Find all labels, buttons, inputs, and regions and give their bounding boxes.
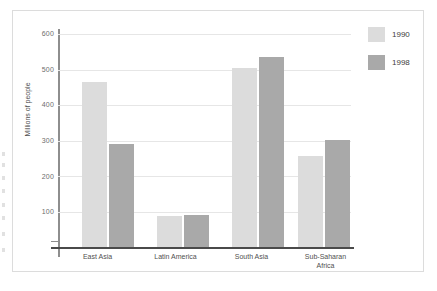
bar-south-asia-1998 [259, 57, 284, 247]
plot-area [58, 34, 351, 247]
y-tick-100: 100 [28, 208, 54, 215]
x-axis-line [51, 247, 354, 249]
y-tick-600: 600 [28, 30, 54, 37]
chart-legend: 1990 1998 [368, 24, 423, 80]
x-label-east-asia: East Asia [66, 252, 129, 261]
bar-sub-saharan-africa-1998 [325, 140, 350, 247]
y-tick-200: 200 [28, 173, 54, 180]
bar-east-asia-1990 [82, 82, 107, 247]
x-label-sub-saharan-africa: Sub-Saharan Africa [288, 252, 363, 270]
y-tick-400: 400 [28, 101, 54, 108]
bar-latin-america-1998 [184, 215, 209, 247]
bar-south-asia-1990 [232, 68, 257, 247]
gridline-600 [58, 34, 351, 35]
legend-label-1990: 1990 [392, 30, 410, 39]
legend-item-1998: 1998 [368, 52, 423, 72]
legend-swatch-1990-icon [368, 27, 385, 42]
gridline-500 [58, 70, 351, 71]
scan-edge-artifacts [0, 0, 12, 291]
x-label-south-asia: South Asia [218, 252, 285, 261]
x-label-latin-america: Latin America [138, 252, 213, 261]
y-axis-title: Millions of people [24, 70, 31, 150]
legend-label-1998: 1998 [392, 58, 410, 67]
bar-east-asia-1998 [109, 144, 134, 247]
y-tick-300: 300 [28, 137, 54, 144]
y-tick-500: 500 [28, 66, 54, 73]
chart-figure: 600 500 400 300 200 100 Millions of peop… [12, 10, 424, 272]
bar-latin-america-1990 [157, 216, 182, 247]
bar-sub-saharan-africa-1990 [298, 156, 323, 247]
legend-item-1990: 1990 [368, 24, 423, 44]
legend-swatch-1998-icon [368, 55, 385, 70]
